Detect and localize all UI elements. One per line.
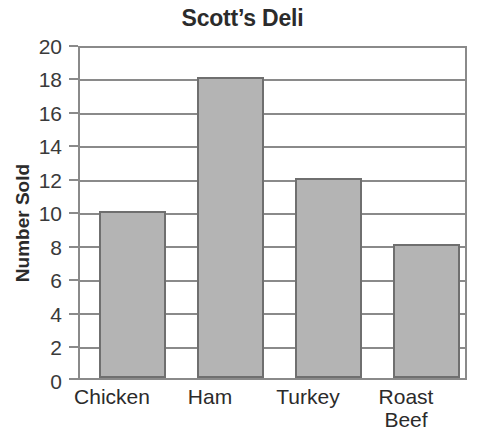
y-tick-mark-18 bbox=[69, 78, 78, 80]
y-tick-label-20: 20 bbox=[22, 36, 62, 57]
plot-area bbox=[78, 46, 467, 380]
y-tick-label-16: 16 bbox=[22, 103, 62, 124]
y-tick-mark-4 bbox=[69, 313, 78, 315]
chart-title: Scott’s Deli bbox=[0, 5, 485, 32]
y-tick-label-6: 6 bbox=[22, 270, 62, 291]
bar-chart-figure: Scott’s Deli Number Sold 20 18 16 14 12 … bbox=[0, 0, 485, 444]
x-tick-label-roast-beef-line2: Beef bbox=[346, 409, 466, 432]
y-tick-label-4: 4 bbox=[22, 304, 62, 325]
y-tick-label-18: 18 bbox=[22, 69, 62, 90]
y-tick-mark-0 bbox=[69, 378, 78, 380]
y-tick-label-2: 2 bbox=[22, 337, 62, 358]
y-tick-mark-8 bbox=[69, 246, 78, 248]
bar-chicken bbox=[99, 211, 166, 378]
gridline-18 bbox=[80, 79, 465, 81]
y-tick-label-10: 10 bbox=[22, 203, 62, 224]
gridline-12 bbox=[80, 180, 465, 182]
y-tick-label-12: 12 bbox=[22, 170, 62, 191]
gridline-16 bbox=[80, 113, 465, 115]
y-tick-mark-2 bbox=[69, 346, 78, 348]
y-tick-mark-16 bbox=[69, 112, 78, 114]
bar-ham bbox=[197, 77, 264, 378]
y-tick-mark-20 bbox=[69, 45, 78, 47]
y-tick-mark-14 bbox=[69, 145, 78, 147]
y-tick-mark-6 bbox=[69, 279, 78, 281]
y-tick-mark-10 bbox=[69, 212, 78, 214]
gridline-14 bbox=[80, 146, 465, 148]
x-tick-label-roast-beef-line1: Roast bbox=[346, 386, 466, 409]
y-tick-label-14: 14 bbox=[22, 136, 62, 157]
y-tick-mark-12 bbox=[69, 179, 78, 181]
bar-turkey bbox=[295, 178, 362, 378]
bar-roast-beef bbox=[393, 244, 460, 378]
y-tick-label-8: 8 bbox=[22, 237, 62, 258]
